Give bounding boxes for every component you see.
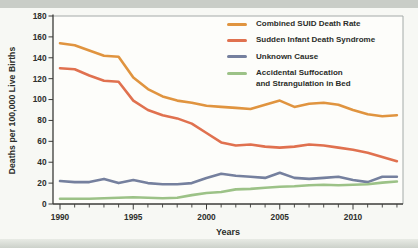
y-tick-label-20: 20 (37, 178, 47, 188)
legend-label: Sudden Infant Death Syndrome (256, 35, 375, 45)
y-tick-label-80: 80 (37, 115, 47, 125)
legend-label: Accidental Suffocationand Strangulation … (256, 68, 351, 89)
legend-item-4: Accidental Suffocationand Strangulation … (227, 68, 375, 89)
y-axis-title: Deaths per 100,000 Live Births (7, 11, 20, 211)
legend: Combined SUID Death RateSudden Infant De… (227, 19, 375, 89)
y-tick-label-60: 60 (37, 136, 47, 146)
x-axis-title: Years (53, 227, 403, 237)
legend-swatch-icon (227, 55, 247, 58)
legend-item-3: Unknown Cause (227, 52, 375, 62)
legend-swatch-icon (227, 23, 247, 26)
y-tick-label-160: 160 (33, 32, 47, 42)
y-tick-label-0: 0 (42, 199, 47, 209)
x-tick-label-1990: 1990 (51, 212, 70, 222)
y-tick-label-120: 120 (33, 74, 47, 84)
legend-swatch-icon (227, 72, 247, 75)
x-tick-label-2000: 2000 (197, 212, 216, 222)
legend-item-2: Sudden Infant Death Syndrome (227, 35, 375, 45)
y-tick-label-100: 100 (33, 94, 47, 104)
legend-swatch-icon (227, 39, 247, 42)
y-tick-label-140: 140 (33, 53, 47, 63)
y-tick-label-40: 40 (37, 157, 47, 167)
legend-item-1: Combined SUID Death Rate (227, 19, 375, 29)
legend-label: Combined SUID Death Rate (256, 19, 360, 29)
legend-label: Unknown Cause (256, 52, 318, 62)
x-tick-label-1995: 1995 (124, 212, 143, 222)
suid-trends-figure: 0204060801001201401601801990199520002005… (0, 0, 418, 248)
x-tick-label-2010: 2010 (344, 212, 363, 222)
x-tick-label-2005: 2005 (271, 212, 290, 222)
y-tick-label-180: 180 (33, 11, 47, 21)
